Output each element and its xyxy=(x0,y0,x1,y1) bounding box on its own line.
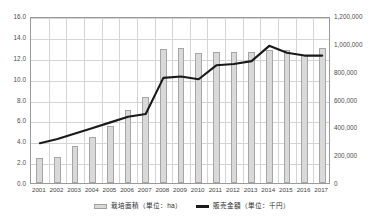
legend-label-sales: 販売金額（単位：千円） xyxy=(213,203,290,210)
x-tick-2013: 2013 xyxy=(242,187,260,193)
legend-item-area: 栽培面積（単位：ha） xyxy=(94,203,181,210)
legend-label-area: 栽培面積（単位：ha） xyxy=(111,203,181,210)
x-tick-2005: 2005 xyxy=(101,187,119,193)
right-tick-200,000: 200,000 xyxy=(334,153,357,159)
left-tick-2.0: 2.0 xyxy=(0,160,26,166)
chart-container: 0.02.04.06.08.010.012.014.016.0 0200,000… xyxy=(0,0,384,221)
right-tick-1,000,000: 1,000,000 xyxy=(334,42,362,48)
bar-swatch-icon xyxy=(94,204,107,209)
x-tick-2012: 2012 xyxy=(224,187,242,193)
x-tick-2002: 2002 xyxy=(48,187,66,193)
x-tick-2001: 2001 xyxy=(30,187,48,193)
x-tick-2008: 2008 xyxy=(154,187,172,193)
left-tick-4.0: 4.0 xyxy=(0,139,26,145)
x-tick-2010: 2010 xyxy=(189,187,207,193)
legend-item-sales: 販売金額（単位：千円） xyxy=(196,203,290,210)
right-tick-800,000: 800,000 xyxy=(334,70,357,76)
plot-area xyxy=(30,17,330,184)
right-tick-1,200,000: 1,200,000 xyxy=(334,14,362,20)
left-tick-6.0: 6.0 xyxy=(0,118,26,124)
left-tick-8.0: 8.0 xyxy=(0,98,26,104)
line-series-sales xyxy=(31,18,331,185)
x-tick-2004: 2004 xyxy=(83,187,101,193)
x-tick-2014: 2014 xyxy=(259,187,277,193)
x-tick-2003: 2003 xyxy=(65,187,83,193)
x-tick-2009: 2009 xyxy=(171,187,189,193)
x-tick-2006: 2006 xyxy=(118,187,136,193)
left-tick-12.0: 12.0 xyxy=(0,56,26,62)
left-tick-14.0: 14.0 xyxy=(0,35,26,41)
chart-legend: 栽培面積（単位：ha） 販売金額（単位：千円） xyxy=(0,203,384,210)
left-tick-10.0: 10.0 xyxy=(0,77,26,83)
right-tick-600,000: 600,000 xyxy=(334,98,357,104)
x-tick-2016: 2016 xyxy=(295,187,313,193)
left-tick-16.0: 16.0 xyxy=(0,14,26,20)
x-tick-2011: 2011 xyxy=(206,187,224,193)
line-swatch-icon xyxy=(196,205,209,208)
left-tick-0.0: 0.0 xyxy=(0,181,26,187)
x-tick-2015: 2015 xyxy=(277,187,295,193)
right-tick-400,000: 400,000 xyxy=(334,125,357,131)
x-tick-2007: 2007 xyxy=(136,187,154,193)
x-tick-2017: 2017 xyxy=(312,187,330,193)
right-tick-0: 0 xyxy=(334,181,338,187)
